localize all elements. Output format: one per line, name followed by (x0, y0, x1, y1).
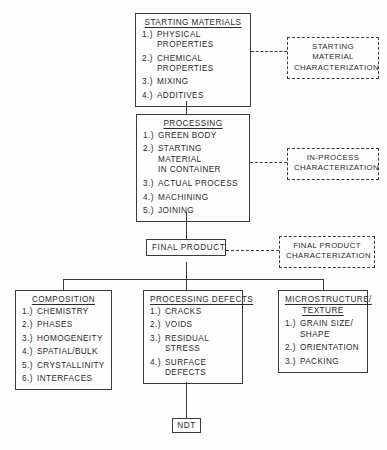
connector-starting-material-characterization (251, 51, 287, 52)
list-item: 2.) VOIDS (150, 320, 236, 330)
list-item: 3.) HOMOGENEITY (22, 334, 105, 344)
box-final-product[interactable]: FINAL PRODUCT (146, 239, 226, 256)
box-microstructure-texture[interactable]: MICROSTRUCTURE/ TEXTURE 1.) GRAIN SIZE/ … (278, 290, 368, 373)
box-in-process-characterization[interactable]: IN-PROCESS CHARACTERIZATION (287, 148, 379, 180)
item-number: 1.) (143, 131, 158, 141)
item-text: CRYSTALLINITY (37, 361, 105, 371)
item-number: 2.) (285, 343, 300, 353)
list-item: 3.) RESIDUAL STRESS (150, 334, 236, 355)
box-microstructure-texture-title: MICROSTRUCTURE/ TEXTURE (285, 295, 361, 316)
item-number: 3.) (150, 334, 165, 344)
list-item: 2.) CHEMICAL PROPERTIES (142, 54, 244, 75)
list-item: 5.) CRYSTALLINITY (22, 361, 105, 371)
item-number: 3.) (285, 357, 300, 367)
item-number: 4.) (150, 358, 165, 368)
list-item: 5.) JOINING (143, 206, 243, 216)
branch-bar (63, 279, 323, 280)
item-text: SURFACE DEFECTS (165, 358, 236, 379)
box-composition[interactable]: COMPOSITION 1.) CHEMISTRY 2.) PHASES 3.)… (15, 290, 112, 390)
box-processing[interactable]: PROCESSING 1.) GREEN BODY 2.) STARTING M… (136, 114, 250, 222)
box-starting-materials[interactable]: STARTING MATERIALS 1.) PHYSICAL PROPERTI… (135, 13, 251, 107)
box-composition-list: 1.) CHEMISTRY 2.) PHASES 3.) HOMOGENEITY… (22, 307, 105, 384)
item-number: 2.) (143, 144, 158, 154)
list-item: 1.) CHEMISTRY (22, 307, 105, 317)
item-number: 3.) (143, 179, 158, 189)
item-text: JOINING (158, 206, 243, 216)
list-item: 3.) PACKING (285, 357, 361, 367)
item-text: SPATIAL/BULK (37, 347, 105, 357)
list-item: 2.) STARTING MATERIAL IN CONTAINER (143, 144, 243, 176)
item-text: GRAIN SIZE/ SHAPE (300, 319, 361, 340)
box-processing-defects[interactable]: PROCESSING DEFECTS 1.) CRACKS 2.) VOIDS … (143, 290, 243, 384)
list-item: 4.) SPATIAL/BULK (22, 347, 105, 357)
item-text: PHYSICAL PROPERTIES (157, 30, 244, 51)
list-item: 4.) MACHINING (143, 193, 243, 203)
box-starting-material-characterization[interactable]: STARTING MATERIAL CHARACTERIZATION (287, 37, 379, 79)
list-item: 6.) INTERFACES (22, 374, 105, 384)
box-microstructure-texture-list: 1.) GRAIN SIZE/ SHAPE 2.) ORIENTATION 3.… (285, 319, 361, 367)
item-text: PHASES (37, 320, 105, 330)
box-ndt[interactable]: NDT (172, 418, 201, 433)
item-text: ADDITIVES (157, 91, 244, 101)
item-number: 1.) (285, 319, 300, 329)
item-text: INTERFACES (37, 374, 105, 384)
starting-material-characterization-label: STARTING MATERIAL CHARACTERIZATION (294, 42, 372, 73)
item-text: CHEMISTRY (37, 307, 105, 317)
box-starting-materials-list: 1.) PHYSICAL PROPERTIES 2.) CHEMICAL PRO… (142, 30, 244, 101)
item-number: 3.) (22, 334, 37, 344)
item-number: 6.) (22, 374, 37, 384)
item-text: STARTING MATERIAL IN CONTAINER (158, 144, 243, 176)
list-item: 1.) GRAIN SIZE/ SHAPE (285, 319, 361, 340)
list-item: 2.) ORIENTATION (285, 343, 361, 353)
connector-in-process-characterization (250, 162, 287, 163)
item-text: RESIDUAL STRESS (165, 334, 236, 355)
connector-final-product-down (186, 262, 187, 279)
item-text: CRACKS (165, 307, 236, 317)
list-item: 1.) GREEN BODY (143, 131, 243, 141)
item-number: 2.) (142, 54, 157, 64)
item-number: 2.) (150, 320, 165, 330)
list-item: 4.) SURFACE DEFECTS (150, 358, 236, 379)
box-processing-defects-list: 1.) CRACKS 2.) VOIDS 3.) RESIDUAL STRESS… (150, 307, 236, 378)
branch-leg-composition (63, 279, 64, 290)
item-number: 4.) (142, 91, 157, 101)
item-text: ACTUAL PROCESS (158, 179, 243, 189)
box-composition-title: COMPOSITION (22, 295, 105, 304)
branch-leg-microstructure (323, 279, 324, 290)
connector-final-product-characterization (226, 250, 279, 251)
ndt-label: NDT (176, 421, 197, 430)
item-text: PACKING (300, 357, 361, 367)
flowchart-canvas: STARTING MATERIALS 1.) PHYSICAL PROPERTI… (0, 0, 387, 450)
item-number: 1.) (150, 307, 165, 317)
item-number: 4.) (143, 193, 158, 203)
list-item: 2.) PHASES (22, 320, 105, 330)
final-product-label: FINAL PRODUCT (152, 243, 220, 252)
box-final-product-characterization[interactable]: FINAL PRODUCT CHARACTERIZATION (279, 236, 375, 268)
item-number: 2.) (22, 320, 37, 330)
list-item: 3.) MIXING (142, 77, 244, 87)
connector-starting-to-processing (186, 101, 187, 114)
item-text: CHEMICAL PROPERTIES (157, 54, 244, 75)
box-processing-title: PROCESSING (143, 119, 243, 128)
list-item: 4.) ADDITIVES (142, 91, 244, 101)
list-item: 1.) CRACKS (150, 307, 236, 317)
item-number: 5.) (143, 206, 158, 216)
connector-processing-to-final-product (186, 212, 187, 239)
item-text: HOMOGENEITY (37, 334, 105, 344)
item-number: 1.) (22, 307, 37, 317)
branch-leg-processing-defects (186, 279, 187, 290)
list-item: 3.) ACTUAL PROCESS (143, 179, 243, 189)
item-number: 4.) (22, 347, 37, 357)
item-text: ORIENTATION (300, 343, 361, 353)
in-process-characterization-label: IN-PROCESS CHARACTERIZATION (294, 153, 372, 174)
item-text: MACHINING (158, 193, 243, 203)
box-processing-defects-title: PROCESSING DEFECTS (150, 295, 236, 304)
final-product-characterization-label: FINAL PRODUCT CHARACTERIZATION (286, 241, 368, 262)
item-text: MIXING (157, 77, 244, 87)
item-text: VOIDS (165, 320, 236, 330)
item-number: 5.) (22, 361, 37, 371)
item-number: 3.) (142, 77, 157, 87)
list-item: 1.) PHYSICAL PROPERTIES (142, 30, 244, 51)
item-number: 1.) (142, 30, 157, 40)
box-processing-list: 1.) GREEN BODY 2.) STARTING MATERIAL IN … (143, 131, 243, 216)
